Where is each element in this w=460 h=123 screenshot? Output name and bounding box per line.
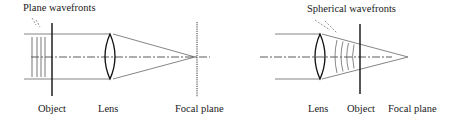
right-diagram: [260, 20, 408, 94]
spherical-wavefronts-label: Spherical wavefronts: [307, 4, 396, 15]
plane-wavefronts-label: Plane wavefronts: [23, 3, 96, 14]
converging-ray-top: [113, 34, 195, 57]
lens-icon: [105, 34, 115, 79]
converging-ray-bottom: [113, 57, 195, 79]
pointer-dash: [325, 21, 337, 33]
focal-plane-label: Focal plane: [175, 104, 224, 115]
object-label: Object: [347, 104, 375, 115]
pointer-dash: [36, 20, 40, 27]
optics-diagram: Plane wavefronts Object Lens Focal plane…: [0, 0, 460, 123]
focal-plane-label: Focal plane: [388, 104, 437, 115]
spherical-wavefronts: [335, 40, 354, 73]
pointer-dash: [315, 20, 330, 30]
lens-label: Lens: [98, 104, 118, 115]
left-diagram: [24, 18, 210, 97]
pointer-dash: [32, 18, 36, 25]
lens-label: Lens: [308, 104, 328, 115]
object-label: Object: [38, 104, 66, 115]
lens-icon: [315, 34, 325, 79]
